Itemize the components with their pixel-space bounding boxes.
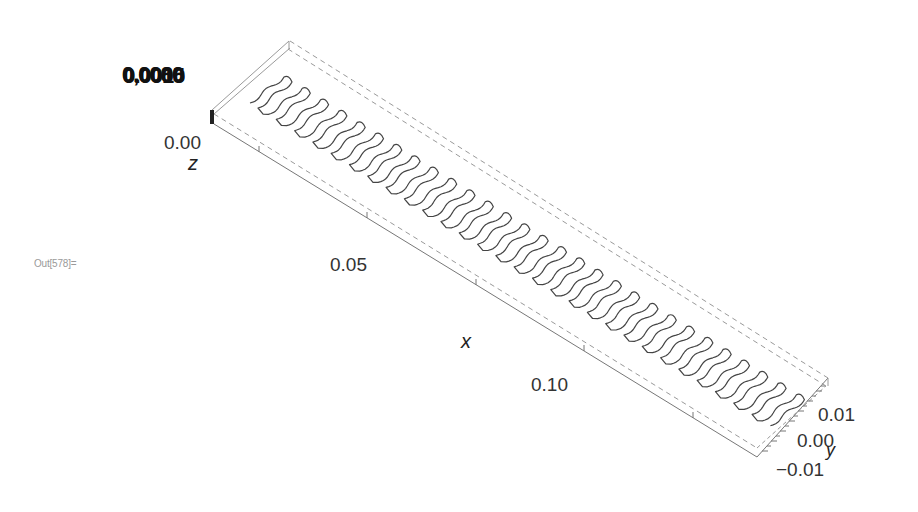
z-tick-overlap-2: 0.0010 [123,63,184,89]
z-tick-0: 0.00 [164,132,201,154]
y-axis-label: y [826,440,835,461]
z-axis-label: z [188,152,198,175]
x-axis-ticks [259,146,693,418]
x-axis-label: x [461,330,471,353]
y-tick-positive: 0.01 [818,404,855,426]
x-tick-0-05: 0.05 [330,254,367,276]
z-axis-stub [210,110,214,124]
y-tick-negative: −0.01 [776,459,824,481]
x-tick-0-10: 0.10 [531,374,568,396]
meander-curve [250,76,804,425]
